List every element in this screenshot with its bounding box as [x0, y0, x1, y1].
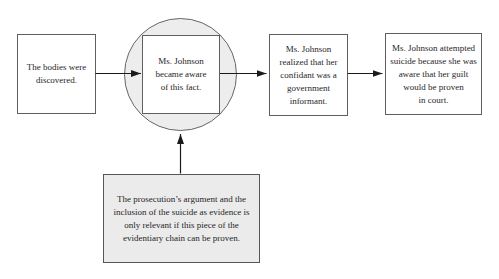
flow-box-bodies-discovered: The bodies were discovered.	[17, 34, 96, 114]
flow-box-attempted-suicide: Ms. Johnson attempted suicide because sh…	[385, 33, 482, 115]
flow-box-became-aware: Ms. Johnson became aware of this fact.	[142, 35, 220, 114]
flow-box-confidant-informant: Ms. Johnson realized that her confidant …	[269, 34, 348, 116]
note-box-prosecution-argument: The prosecution’s argument and the inclu…	[103, 174, 260, 263]
flowchart-canvas: The bodies were discovered. Ms. Johnson …	[0, 0, 499, 279]
